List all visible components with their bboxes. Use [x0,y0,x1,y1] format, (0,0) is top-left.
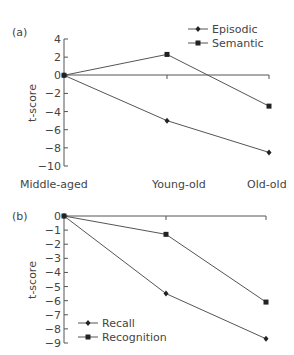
y-tick-label: −4 [45,106,61,119]
y-tick-label: 0 [54,210,61,223]
y-tick-label: 2 [54,51,61,64]
x-category-labels: Middle-aged Young-old Old-old [20,178,287,191]
series-line-semantic [64,54,269,106]
legend-square-marker-icon [196,41,201,46]
y-tick-label: −6 [45,124,61,137]
legend-label-episodic: Episodic [212,23,258,36]
y-tick-label: −10 [38,160,61,173]
y-tick-label: −4 [45,266,61,279]
y-tick-label: −8 [45,142,61,155]
panel-b-chart: (b) 0−1−2−3−4−5−6−7−8−9 t-score RecallRe… [12,210,269,350]
legend-label-semantic: Semantic [212,37,264,50]
legend-label-recall: Recall [102,317,135,330]
y-tick-label: −3 [45,252,61,265]
square-marker [165,52,170,57]
panel-a-series [62,52,272,155]
panel-a-label: (a) [12,26,27,39]
legend-diamond-marker-icon [86,320,91,326]
panel-b-label: (b) [12,210,28,223]
y-tick-label: −6 [45,295,61,308]
y-tick-label: −8 [45,323,61,336]
panel-b-legend: RecallRecognition [78,317,167,344]
square-marker [164,232,169,237]
category-label-young-old: Young-old [151,178,206,191]
panel-a-chart: (a) 420−2−4−6−8−10 t-score EpisodicSeman… [12,23,272,173]
diamond-marker [165,118,170,124]
y-tick-label: −5 [45,281,61,294]
series-line-episodic [64,75,269,152]
square-marker [264,300,269,305]
y-tick-label: −2 [45,238,61,251]
diamond-marker [164,291,169,297]
y-tick-label: −9 [45,337,61,350]
category-label-middle-aged: Middle-aged [20,178,88,191]
legend-diamond-marker-icon [196,26,201,32]
y-tick-label: 4 [54,33,61,46]
y-tick-label: −2 [45,87,61,100]
panel-a-y-axis: 420−2−4−6−8−10 [38,33,269,173]
panel-b-series [62,213,269,342]
diamond-marker [264,336,269,342]
legend-square-marker-icon [86,335,91,340]
series-line-recognition [64,216,266,302]
diamond-marker [267,149,272,155]
square-marker [267,104,272,109]
square-marker [62,214,67,219]
square-marker [62,73,67,78]
category-label-old-old: Old-old [247,178,287,191]
y-tick-label: −7 [45,309,61,322]
y-tick-label: 0 [54,69,61,82]
legend-label-recognition: Recognition [102,331,167,344]
y-tick-label: −1 [45,224,61,237]
panel-a-y-axis-title: t-score [26,84,39,122]
panel-a-legend: EpisodicSemantic [188,23,264,50]
panel-b-y-axis-title: t-score [26,261,39,299]
figure: (a) 420−2−4−6−8−10 t-score EpisodicSeman… [0,0,294,355]
